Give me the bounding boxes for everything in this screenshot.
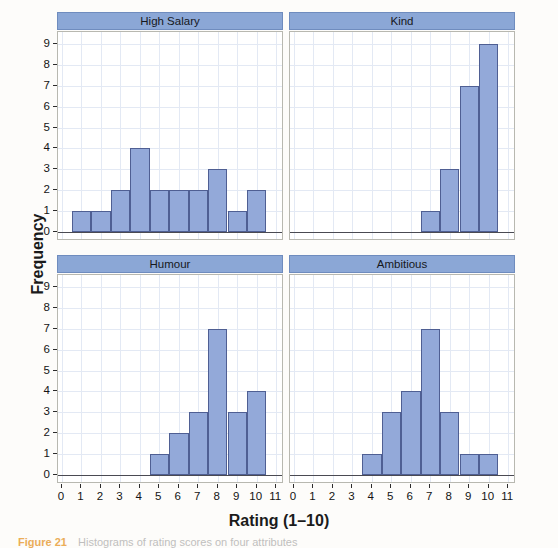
y-axis-tick-label: 2	[44, 426, 50, 438]
gridline-horizontal	[58, 329, 282, 330]
gridline-vertical	[276, 32, 277, 239]
gridline-horizontal	[58, 169, 282, 170]
x-axis-tick-label: 4	[136, 490, 142, 502]
panel-high-salary: High Salary	[57, 12, 283, 240]
histogram-bar	[421, 329, 440, 475]
panel-humour: Humour	[57, 255, 283, 483]
gridline-horizontal	[58, 107, 282, 108]
y-axis-tick-label: 6	[44, 343, 50, 355]
panel-grid: High Salary Kind Humour Ambitious	[57, 12, 545, 490]
gridline-horizontal	[58, 350, 282, 351]
histogram-bar	[72, 211, 91, 232]
x-axis-tick-label: 7	[426, 490, 432, 502]
histogram-bar	[130, 148, 149, 231]
gridline-vertical	[333, 275, 334, 482]
histogram-bar	[169, 190, 188, 232]
x-axis-tick-label: 10	[249, 490, 262, 502]
x-axis-tick-label: 11	[501, 490, 513, 502]
x-axis-tick-label: 2	[97, 490, 103, 502]
histogram-bar	[228, 412, 247, 474]
x-axis-tick-label: 8	[214, 490, 220, 502]
gridline-vertical	[411, 32, 412, 239]
x-axis-tick-label: 1	[309, 490, 315, 502]
histogram-bar	[460, 86, 479, 232]
gridline-vertical	[372, 275, 373, 482]
histogram-bar	[111, 190, 130, 232]
gridline-vertical	[489, 275, 490, 482]
x-axis-tick-label: 6	[175, 490, 181, 502]
gridline-horizontal	[290, 350, 514, 351]
caption-text: Histograms of rating scores on four attr…	[78, 536, 297, 548]
histogram-bar	[150, 454, 169, 475]
gridline-horizontal	[58, 128, 282, 129]
plot-area	[57, 31, 283, 240]
y-axis-tick-label: 3	[44, 162, 50, 174]
x-axis-tick-label: 0	[290, 490, 296, 502]
histogram-bar	[247, 190, 266, 232]
histogram-bar	[150, 190, 169, 232]
panel-title-text: Humour	[150, 258, 191, 270]
gridline-horizontal	[58, 287, 282, 288]
histogram-bar	[440, 412, 459, 474]
gridline-vertical	[430, 32, 431, 239]
histogram-bar	[401, 391, 420, 474]
histogram-bar	[228, 211, 247, 232]
histogram-bar	[460, 454, 479, 475]
y-axis-tick-label: 0	[44, 225, 50, 237]
x-axis-tick-label: 4	[368, 490, 374, 502]
x-axis-tick-label: 5	[155, 490, 161, 502]
histogram-bar	[440, 169, 459, 231]
gridline-vertical	[294, 32, 295, 239]
gridline-vertical	[101, 32, 102, 239]
panel-strip-label: Kind	[289, 12, 515, 30]
x-axis-tick-label: 9	[233, 490, 239, 502]
page-caption: Figure 21 Histograms of rating scores on…	[0, 536, 558, 548]
y-axis-tick-label: 7	[44, 79, 50, 91]
y-axis-tick-label: 7	[44, 322, 50, 334]
zero-baseline	[290, 475, 514, 476]
zero-baseline	[290, 232, 514, 233]
y-axis-bottom: 0123456789	[27, 274, 57, 483]
gridline-vertical	[81, 32, 82, 239]
gridline-vertical	[372, 32, 373, 239]
y-axis-tick-label: 2	[44, 183, 50, 195]
gridline-horizontal	[290, 287, 514, 288]
x-axis-tick-label: 8	[446, 490, 452, 502]
y-axis-tick-label: 0	[44, 468, 50, 480]
gridline-horizontal	[58, 86, 282, 87]
gridline-horizontal	[290, 308, 514, 309]
y-axis-tick-label: 1	[44, 447, 50, 459]
gridline-vertical	[120, 275, 121, 482]
plot-area	[289, 31, 515, 240]
panel-title-text: High Salary	[140, 15, 199, 27]
histogram-bar	[479, 44, 498, 231]
gridline-horizontal	[58, 44, 282, 45]
gridline-vertical	[159, 275, 160, 482]
zero-baseline	[58, 232, 282, 233]
x-axis-tick-label: 3	[116, 490, 122, 502]
y-axis-tick-label: 6	[44, 100, 50, 112]
gridline-vertical	[294, 275, 295, 482]
gridline-vertical	[469, 275, 470, 482]
gridline-vertical	[352, 32, 353, 239]
x-axis-title: Rating (1–10)	[0, 512, 558, 530]
histogram-bar	[479, 454, 498, 475]
x-axis-tick-label: 9	[465, 490, 471, 502]
panel-strip-label: Humour	[57, 255, 283, 273]
gridline-vertical	[313, 32, 314, 239]
gridline-vertical	[352, 275, 353, 482]
y-axis-tick-label: 5	[44, 121, 50, 133]
panel-kind: Kind	[289, 12, 515, 240]
gridline-horizontal	[58, 148, 282, 149]
histogram-bar	[169, 433, 188, 475]
gridline-vertical	[508, 275, 509, 482]
gridline-horizontal	[290, 371, 514, 372]
gridline-vertical	[62, 32, 63, 239]
y-axis-tick-label: 8	[44, 58, 50, 70]
y-axis-tick-label: 4	[44, 141, 50, 153]
plot-area	[289, 274, 515, 483]
panel-strip-label: High Salary	[57, 12, 283, 30]
plot-area	[57, 274, 283, 483]
histogram-bar	[189, 412, 208, 474]
gridline-vertical	[81, 275, 82, 482]
